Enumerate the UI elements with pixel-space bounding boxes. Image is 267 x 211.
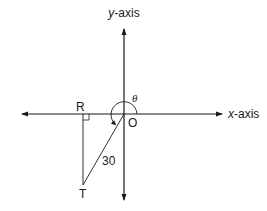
y-axis-label: y-axis [107, 6, 139, 20]
point-label-r: R [76, 100, 85, 114]
point-label-t: T [79, 187, 87, 201]
segment-ot [83, 114, 124, 185]
x-axis-label: x-axis [227, 107, 259, 121]
point-label-origin: O [128, 116, 137, 130]
theta-label: θ [132, 92, 138, 104]
right-angle-marker [83, 114, 89, 120]
segment-length-label: 30 [102, 154, 116, 168]
triangle-ort [83, 114, 124, 185]
coordinate-diagram: y-axis x-axis θ O R T 30 [0, 0, 267, 211]
